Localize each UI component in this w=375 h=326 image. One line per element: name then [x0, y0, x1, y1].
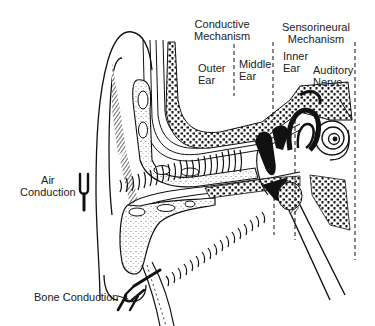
bone-conduction-text: Bone Conduction: [34, 291, 118, 303]
ear-diagram: Conductive Mechanism Sensorineural Mecha…: [0, 0, 375, 326]
inner-ear-line2: Ear: [283, 62, 308, 74]
conductive-mechanism-label: Conductive Mechanism: [194, 18, 250, 42]
middle-ear-line2: Ear: [239, 70, 271, 82]
air-conduction-label: Air Conduction: [20, 174, 76, 198]
conductive-line1: Conductive: [194, 18, 250, 30]
bone-conduction-label: Bone Conduction: [34, 291, 118, 303]
inner-ear-line1: Inner: [283, 50, 308, 62]
bone-tuning-fork-icon: [118, 270, 160, 310]
sensorineural-line2: Mechanism: [282, 33, 350, 45]
inner-ear-label: Inner Ear: [283, 50, 308, 74]
outer-ear-label: Outer Ear: [198, 62, 226, 86]
outer-ear-line1: Outer: [198, 62, 226, 74]
middle-ear-label: Middle Ear: [239, 58, 271, 82]
middle-ear-line1: Middle: [239, 58, 271, 70]
conductive-line2: Mechanism: [194, 30, 250, 42]
bone-sound-waves: [166, 212, 265, 286]
sensorineural-mechanism-label: Sensorineural Mechanism: [282, 21, 350, 45]
helix-shading: [112, 62, 126, 155]
cochlea: [315, 121, 349, 155]
auditory-nerve-label: Auditory Nerve: [313, 64, 353, 88]
air-conduction-line2: Conduction: [20, 186, 76, 198]
ear-illustration: [0, 0, 375, 326]
air-tuning-fork-icon: [80, 174, 88, 210]
sensorineural-line1: Sensorineural: [282, 21, 350, 33]
outer-ear-line2: Ear: [198, 74, 226, 86]
air-conduction-line1: Air: [20, 174, 76, 186]
auditory-nerve-line2: Nerve: [313, 76, 353, 88]
auditory-nerve-line1: Auditory: [313, 64, 353, 76]
